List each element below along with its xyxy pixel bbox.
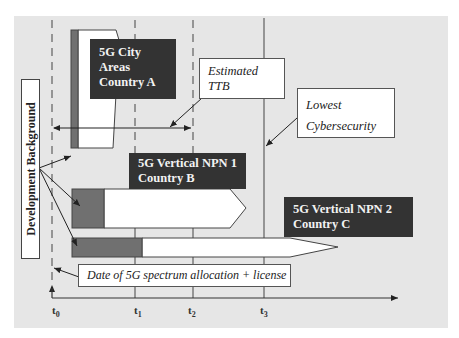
npn2-white-arrow — [142, 238, 338, 257]
npn1-label-line: Country B — [138, 171, 246, 186]
development-background-box: Development Background — [21, 79, 40, 259]
npn1-gray-bar — [72, 189, 104, 228]
tick-t1: t1 — [134, 304, 142, 319]
city-gray-bar — [71, 30, 78, 148]
date-text: Date of 5G spectrum allocation + license — [87, 268, 286, 282]
tick-t3: t3 — [260, 304, 268, 319]
ttb-line: Estimated — [208, 64, 284, 79]
city-label-box: 5G City Areas Country A — [90, 39, 176, 99]
tick-t2: t2 — [188, 304, 196, 319]
tick-t0: t0 — [52, 304, 60, 319]
dev-arrow-npn1 — [39, 168, 80, 206]
city-label-line: Areas — [99, 60, 176, 75]
npn2-label-box: 5G Vertical NPN 2 Country C — [284, 197, 413, 237]
npn2-label-line: 5G Vertical NPN 2 — [293, 202, 413, 217]
ttb-callout-arrow — [170, 98, 202, 127]
cyber-line: Cybersecurity — [306, 116, 394, 137]
cyber-callout: Lowest Cybersecurity — [297, 88, 395, 138]
date-callout-arrow — [54, 268, 79, 277]
development-background-label: Development Background — [23, 102, 38, 235]
dev-arrow-npn2 — [39, 168, 77, 246]
npn1-white-arrow — [104, 189, 246, 228]
cyber-line: Lowest — [306, 95, 394, 116]
npn1-label-box: 5G Vertical NPN 1 Country B — [129, 153, 246, 189]
city-label-line: Country A — [99, 75, 176, 90]
ttb-line: TTB — [208, 79, 284, 94]
ttb-callout: Estimated TTB — [199, 58, 285, 99]
npn2-label-line: Country C — [293, 217, 413, 232]
npn2-gray-bar — [72, 238, 142, 257]
cyber-callout-arrow — [266, 118, 297, 146]
date-callout: Date of 5G spectrum allocation + license — [78, 264, 291, 287]
city-label-line: 5G City — [99, 45, 176, 60]
npn1-label-line: 5G Vertical NPN 1 — [138, 156, 246, 171]
dev-arrow-city — [39, 156, 71, 168]
